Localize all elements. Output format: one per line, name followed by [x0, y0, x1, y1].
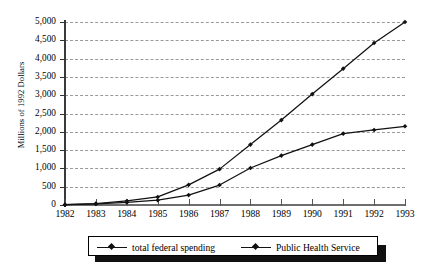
- legend-marker-icon: [241, 242, 271, 252]
- series-plot: [0, 0, 426, 274]
- legend-label: total federal spending: [132, 242, 215, 253]
- data-point-marker: [279, 153, 284, 158]
- data-point-marker: [186, 193, 191, 198]
- data-point-marker: [217, 183, 222, 188]
- data-point-marker: [94, 202, 99, 207]
- data-point-marker: [155, 198, 160, 203]
- data-point-marker: [186, 183, 191, 188]
- series-line: [65, 126, 405, 204]
- data-point-marker: [403, 124, 408, 129]
- data-point-marker: [248, 166, 253, 171]
- series-total-federal-spending: [63, 20, 408, 207]
- legend-label: Public Health Service: [276, 242, 360, 253]
- chart-legend: total federal spending Public Health Ser…: [88, 236, 378, 256]
- data-point-marker: [310, 142, 315, 147]
- series-public-health-service: [63, 124, 408, 207]
- data-point-marker: [341, 131, 346, 136]
- chart-container: Millions of 1992 Dollars 05001,0001,5002…: [0, 0, 426, 274]
- legend-item-total-federal-spending[interactable]: total federal spending: [97, 237, 215, 257]
- data-point-marker: [63, 202, 68, 207]
- data-point-marker: [372, 128, 377, 133]
- legend-marker-icon: [97, 242, 127, 252]
- legend-item-public-health-service[interactable]: Public Health Service: [241, 237, 360, 257]
